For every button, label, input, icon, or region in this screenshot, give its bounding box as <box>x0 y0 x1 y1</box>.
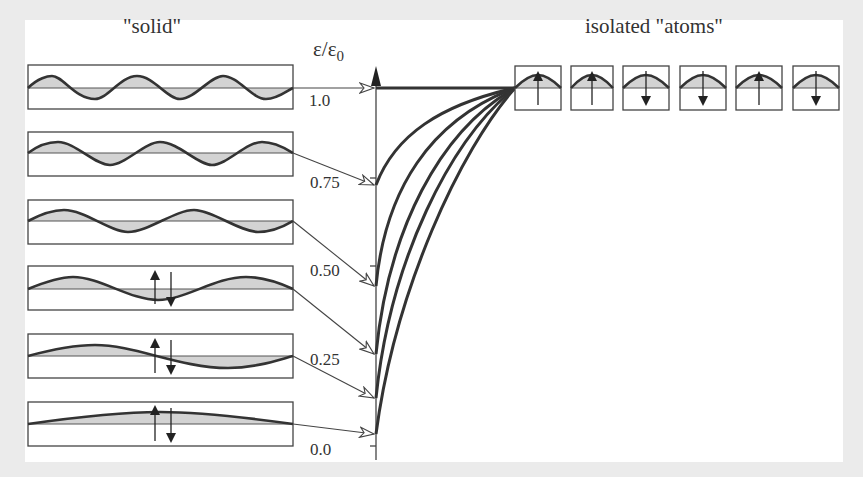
solid-box-1 <box>28 132 293 176</box>
connector-arrows <box>293 88 374 434</box>
solid-box-2 <box>28 200 293 244</box>
diagram-graphics <box>0 0 863 477</box>
solid-box-5 <box>28 402 293 446</box>
atom-box-4 <box>736 66 782 110</box>
atom-box-0 <box>515 66 561 110</box>
atom-boxes <box>515 66 839 110</box>
atom-box-1 <box>571 66 613 110</box>
solid-box-3 <box>28 266 293 310</box>
atom-box-3 <box>680 66 726 110</box>
solid-state-boxes <box>28 65 293 446</box>
solid-box-4 <box>28 334 293 378</box>
atom-box-2 <box>623 66 669 110</box>
atom-box-5 <box>793 66 839 110</box>
axis-arrow-icon <box>371 66 381 86</box>
solid-box-0 <box>28 65 293 109</box>
energy-curves <box>376 88 515 434</box>
